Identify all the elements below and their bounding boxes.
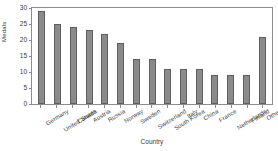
y-axis-tick-label: 25 <box>20 21 29 28</box>
x-axis-label-slot: China <box>192 108 208 138</box>
x-axis-title: Country <box>31 138 273 145</box>
bar-slot <box>144 8 160 104</box>
bar-slot <box>34 8 50 104</box>
x-axis-label-slot: Austria <box>81 108 97 138</box>
bar-slot <box>207 8 223 104</box>
bar-slot <box>223 8 239 104</box>
bar[interactable] <box>243 75 250 104</box>
y-axis-tick: 30 <box>20 4 32 12</box>
y-axis-tick: 10 <box>20 68 32 76</box>
y-axis-tick: 15 <box>20 52 32 60</box>
bar[interactable] <box>38 11 45 104</box>
x-axis-label-slot: Germany <box>33 108 49 138</box>
plot-area: 051015202530 <box>31 7 273 105</box>
y-axis-tick-label: 15 <box>20 53 29 60</box>
bar[interactable] <box>180 69 187 104</box>
bar-slot <box>97 8 113 104</box>
medals-by-country-bar-chart: Medals 051015202530 GermanyUnited States… <box>0 0 278 151</box>
x-axis-label-slot: South Korea <box>160 108 176 138</box>
x-axis-label-slot: Russia <box>96 108 112 138</box>
bar-slot <box>160 8 176 104</box>
x-axis-label-slot: Finland <box>239 108 255 138</box>
bar[interactable] <box>164 69 171 104</box>
x-axis-label-slot: Italy <box>176 108 192 138</box>
y-axis-tick: 5 <box>23 84 32 92</box>
bar[interactable] <box>149 59 156 104</box>
bar-slot <box>128 8 144 104</box>
y-axis-tick: 20 <box>20 36 32 44</box>
bar[interactable] <box>227 75 234 104</box>
bar-slot <box>113 8 129 104</box>
y-axis-tick-label: 30 <box>20 5 29 12</box>
y-axis-tick: 25 <box>20 20 32 28</box>
x-axis-category-label: Other <box>265 108 278 121</box>
x-axis-label-slot: Switzerland <box>144 108 160 138</box>
bar[interactable] <box>101 34 108 104</box>
bar[interactable] <box>211 75 218 104</box>
bar[interactable] <box>133 59 140 104</box>
x-axis-label-slot: Other <box>255 108 271 138</box>
bar-slot <box>176 8 192 104</box>
x-axis-label-slot: Canada <box>65 108 81 138</box>
x-axis-label-slot: United States <box>49 108 65 138</box>
bar[interactable] <box>54 24 61 104</box>
x-axis-label-slot: France <box>207 108 223 138</box>
x-axis-label-slot: Norway <box>112 108 128 138</box>
x-axis-label-slot: Sweden <box>128 108 144 138</box>
y-axis-title: Medals <box>1 2 7 42</box>
y-axis-tick-label: 10 <box>20 69 29 76</box>
bar-slot <box>65 8 81 104</box>
bar-slot <box>191 8 207 104</box>
bar[interactable] <box>86 30 93 104</box>
bar-slot <box>50 8 66 104</box>
bar[interactable] <box>196 69 203 104</box>
bar[interactable] <box>70 27 77 104</box>
bar-slot <box>239 8 255 104</box>
bar-slot <box>81 8 97 104</box>
bars-container <box>32 8 272 104</box>
x-axis-category-labels: GermanyUnited StatesCanadaAustriaRussiaN… <box>31 108 273 138</box>
bar[interactable] <box>117 43 124 104</box>
bar[interactable] <box>259 37 266 104</box>
x-axis-label-slot: Netherlands <box>223 108 239 138</box>
y-axis-tick-label: 20 <box>20 37 29 44</box>
bar-slot <box>254 8 270 104</box>
